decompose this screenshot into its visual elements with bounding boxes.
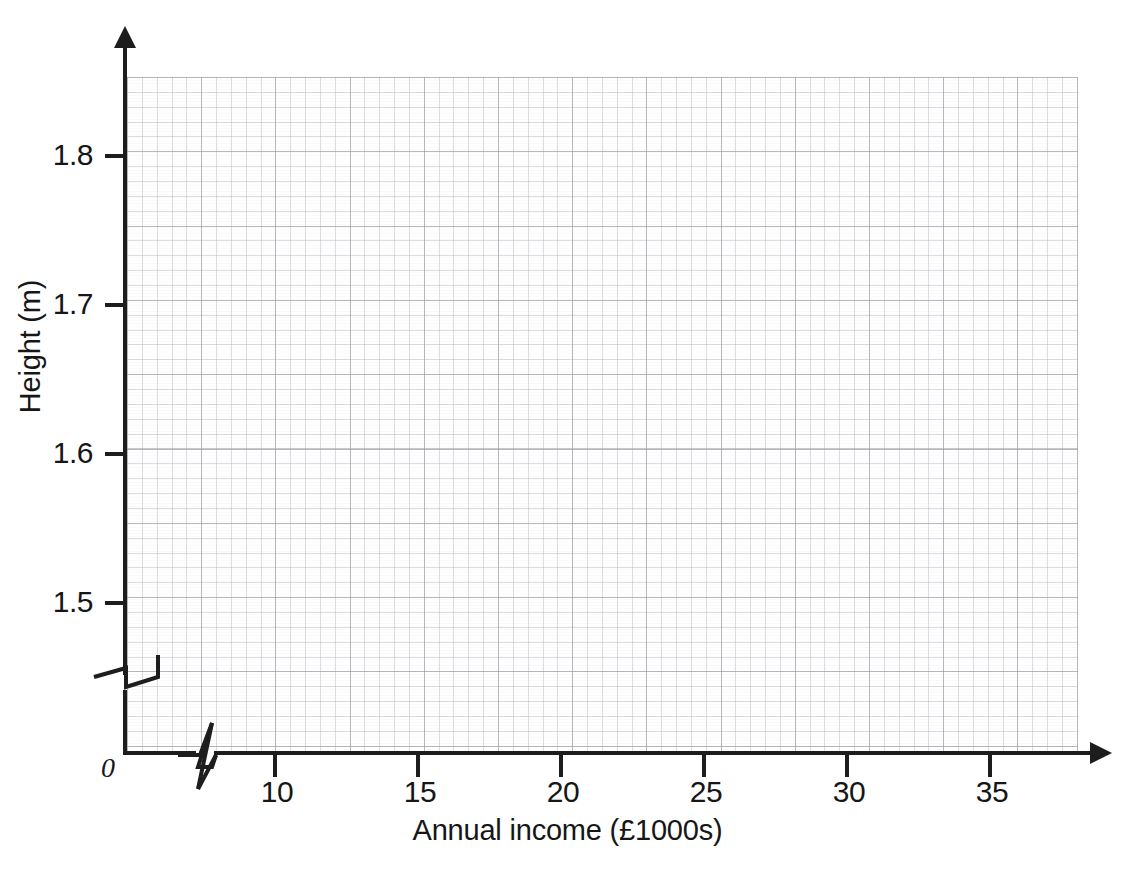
graph-paper-grid	[127, 77, 1078, 753]
y-tick-label-1.6: 1.6	[53, 436, 93, 470]
origin-label: 0	[101, 752, 115, 784]
x-tick-label-15: 15	[404, 775, 436, 809]
x-tick-label-30: 30	[833, 775, 865, 809]
x-tick-label-20: 20	[547, 775, 579, 809]
x-tick-20	[559, 755, 563, 777]
y-tick-label-1.8: 1.8	[53, 138, 93, 172]
x-tick-25	[702, 755, 706, 777]
x-axis-arrow-icon	[1090, 742, 1112, 764]
x-axis-title: Annual income (£1000s)	[0, 814, 1135, 847]
y-tick-label-1.5: 1.5	[53, 585, 93, 619]
y-tick-1.8	[105, 154, 127, 158]
x-axis-line	[214, 751, 1094, 755]
y-axis-title-wrapper: Height (m)	[14, 227, 47, 467]
y-axis-break-icon	[92, 655, 172, 700]
y-tick-1.7	[105, 303, 127, 307]
x-axis-break-icon	[178, 715, 230, 797]
y-axis-line	[123, 40, 127, 675]
graph-figure: 1.8 1.7 1.6 1.5 10 15 20 25 30 35 0 Annu…	[0, 0, 1135, 875]
x-tick-35	[988, 755, 992, 777]
x-tick-15	[416, 755, 420, 777]
x-tick-label-25: 25	[690, 775, 722, 809]
x-tick-10	[273, 755, 277, 777]
y-tick-1.6	[105, 452, 127, 456]
y-tick-label-1.7: 1.7	[53, 287, 93, 321]
y-tick-1.5	[105, 601, 127, 605]
grid-right-edge	[1077, 77, 1078, 754]
x-tick-label-35: 35	[976, 775, 1008, 809]
y-axis-title: Height (m)	[14, 280, 46, 413]
y-axis-arrow-icon	[114, 26, 136, 48]
x-tick-label-10: 10	[261, 775, 293, 809]
x-tick-30	[845, 755, 849, 777]
